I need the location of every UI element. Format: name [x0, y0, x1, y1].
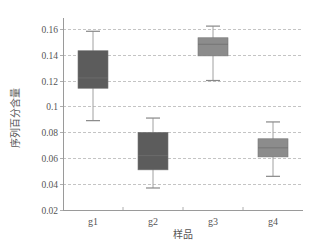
iqr-box	[198, 38, 228, 56]
y-tick-label: 0.12	[41, 77, 58, 87]
box-g3	[198, 26, 228, 80]
x-axis-title: 样品	[173, 228, 193, 240]
axes	[63, 18, 303, 211]
y-tick-label: 0.16	[41, 25, 58, 35]
iqr-box	[78, 51, 108, 89]
x-tick-label: g2	[148, 216, 158, 227]
box-g1	[78, 31, 108, 120]
y-tick-label: 0.08	[41, 128, 58, 138]
y-tick-label: 0.06	[41, 154, 58, 164]
y-tick-label: 0.14	[41, 51, 58, 61]
box-series	[78, 26, 288, 188]
y-tick-label: 0.04	[41, 180, 58, 190]
x-tick-label: g4	[268, 216, 278, 227]
y-tick-label: 0.1	[46, 102, 58, 112]
x-tick-label: g3	[208, 216, 218, 227]
box-g4	[258, 122, 288, 176]
y-axis-title: 序列百分含量	[9, 88, 21, 148]
box-g2	[138, 118, 168, 188]
y-axis-ticks: 0.020.040.060.080.10.120.140.16	[41, 25, 63, 216]
y-tick-label: 0.02	[41, 206, 58, 216]
x-tick-label: g1	[88, 216, 98, 227]
box-plot-chart: 0.020.040.060.080.10.120.140.16 g1g2g3g4…	[0, 0, 319, 251]
iqr-box	[138, 132, 168, 170]
